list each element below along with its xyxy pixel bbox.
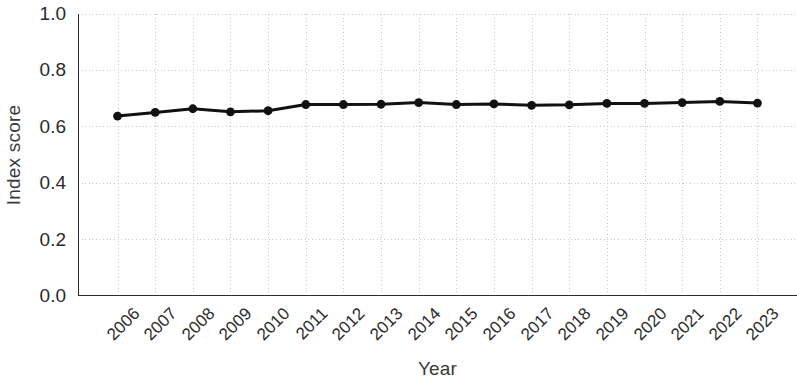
y-axis-tick-label: 0.4 <box>18 172 74 194</box>
x-axis-tick-label: 2022 <box>705 304 746 345</box>
x-axis-tick-label: 2014 <box>404 304 445 345</box>
horizontal-gridlines <box>78 14 797 296</box>
x-axis-tick-label: 2009 <box>216 304 257 345</box>
x-axis-tick-label: 2007 <box>140 304 181 345</box>
data-point <box>188 104 197 113</box>
y-axis-tick-labels: 0.00.20.40.60.81.0 <box>18 0 74 389</box>
x-axis-tick-label: 2008 <box>178 304 219 345</box>
x-axis-tick-label: 2016 <box>479 304 520 345</box>
y-axis-tick-label: 0.0 <box>18 285 74 307</box>
line-chart-figure: Index score 0.00.20.40.60.81.0 200620072… <box>0 0 797 389</box>
x-axis-tick-label: 2020 <box>630 304 671 345</box>
y-axis-tick-label: 0.6 <box>18 116 74 138</box>
x-axis-tick-label: 2010 <box>253 304 294 345</box>
x-axis-tick-label: 2015 <box>442 304 483 345</box>
y-axis-tick-label: 0.2 <box>18 229 74 251</box>
data-point <box>715 97 724 106</box>
data-point <box>452 100 461 109</box>
x-axis-label: Year <box>78 358 797 380</box>
data-series-line <box>118 101 758 116</box>
x-axis-label-text: Year <box>418 358 457 379</box>
y-axis-tick-label: 0.8 <box>18 59 74 81</box>
axis-spines <box>78 14 797 296</box>
x-axis-tick-label: 2006 <box>103 304 144 345</box>
vertical-gridlines <box>119 14 758 296</box>
data-point <box>565 100 574 109</box>
x-axis-tick-label: 2023 <box>743 304 784 345</box>
data-point <box>226 107 235 116</box>
data-point <box>264 106 273 115</box>
plot-area <box>78 14 797 296</box>
chart-svg <box>78 14 797 296</box>
data-point <box>414 98 423 107</box>
x-axis-tick-labels: 2006200720082009201020112012201320142015… <box>78 296 797 358</box>
x-axis-tick-label: 2019 <box>592 304 633 345</box>
x-axis-tick-label: 2018 <box>554 304 595 345</box>
x-axis-tick-label: 2021 <box>667 304 708 345</box>
x-axis-tick-label: 2013 <box>366 304 407 345</box>
data-point <box>527 101 536 110</box>
data-point <box>602 99 611 108</box>
x-axis-tick-label: 2011 <box>292 304 332 344</box>
data-point <box>490 100 499 109</box>
data-point <box>640 99 649 108</box>
y-axis-tick-label: 1.0 <box>18 3 74 25</box>
axis-tick-marks <box>78 15 758 297</box>
data-point <box>151 108 160 117</box>
x-axis-tick-label: 2012 <box>329 304 370 345</box>
x-axis-tick-label: 2017 <box>517 304 558 345</box>
data-point <box>753 99 762 108</box>
data-point <box>678 98 687 107</box>
data-point <box>339 100 348 109</box>
data-point <box>113 112 122 121</box>
data-point <box>301 100 310 109</box>
data-point <box>377 100 386 109</box>
